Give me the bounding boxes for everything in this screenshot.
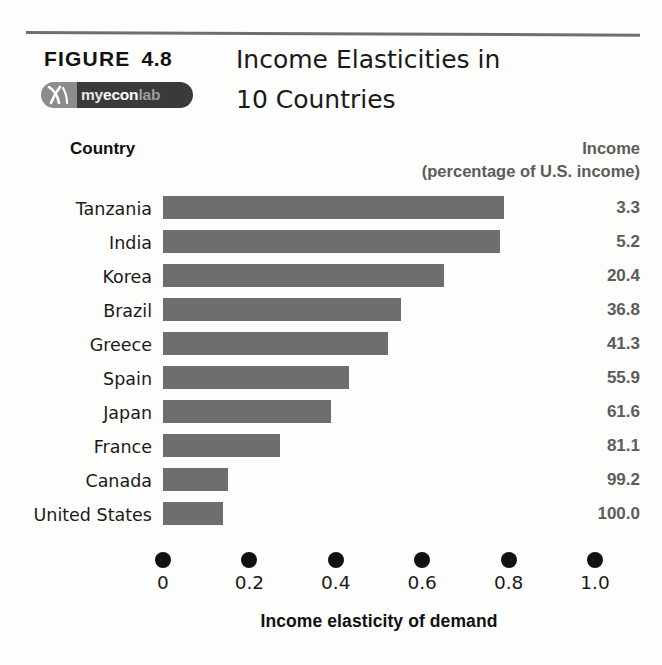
- x-axis-tick-dot: [155, 552, 171, 568]
- bar-elasticity: [163, 298, 401, 321]
- bar-elasticity: [163, 332, 388, 355]
- row-label-country: Tanzania: [0, 199, 152, 219]
- row-value-income: 99.2: [607, 470, 640, 490]
- x-axis-tick-label: 0: [133, 572, 193, 593]
- bar-elasticity: [163, 434, 280, 457]
- figure-page: FIGURE4.8 myeconlab Income Elasticities …: [0, 0, 662, 665]
- chart-row: India5.2: [0, 230, 662, 264]
- figure-label: FIGURE4.8: [44, 47, 172, 71]
- x-axis-tick-dot: [501, 552, 517, 568]
- row-label-country: Canada: [0, 471, 152, 491]
- row-label-country: India: [0, 233, 152, 253]
- row-label-country: Brazil: [0, 301, 152, 321]
- x-axis-tick-label: 1.0: [565, 572, 625, 593]
- x-axis-tick-dot: [241, 552, 257, 568]
- figure-title: Income Elasticities in 10 Countries: [236, 40, 636, 120]
- chart-row: Tanzania3.3: [0, 196, 662, 230]
- chart-row: Japan61.6: [0, 400, 662, 434]
- figure-title-line-1: Income Elasticities in: [236, 40, 636, 80]
- row-label-country: Spain: [0, 369, 152, 389]
- row-label-country: France: [0, 437, 152, 457]
- myeconlab-wordmark: myeconlab: [77, 82, 193, 108]
- chart-row: Spain55.9: [0, 366, 662, 400]
- row-value-income: 100.0: [597, 504, 640, 524]
- logo-text-econ: econ: [103, 82, 138, 108]
- x-axis-tick-dot: [414, 552, 430, 568]
- x-axis-tick-label: 0.4: [306, 572, 366, 593]
- row-value-income: 20.4: [607, 266, 640, 286]
- column-header-income: Income (percentage of U.S. income): [422, 137, 640, 183]
- figure-title-line-2: 10 Countries: [236, 80, 636, 120]
- chart-row: United States100.0: [0, 502, 662, 536]
- row-value-income: 55.9: [607, 368, 640, 388]
- header-divider: [26, 31, 640, 37]
- chart-row: Greece41.3: [0, 332, 662, 366]
- x-axis-tick-label: 0.2: [219, 572, 279, 593]
- chart-row: France81.1: [0, 434, 662, 468]
- myeconlab-logo: myeconlab: [41, 82, 193, 108]
- logo-text-my: my: [81, 82, 103, 108]
- bar-elasticity: [163, 400, 331, 423]
- column-header-income-line-1: Income: [422, 137, 640, 160]
- x-axis: 00.20.40.60.81.0: [0, 552, 662, 612]
- myeconlab-x-icon: [41, 82, 77, 108]
- row-value-income: 61.6: [607, 402, 640, 422]
- bar-elasticity: [163, 264, 444, 287]
- logo-text-lab: lab: [138, 82, 160, 108]
- bar-elasticity: [163, 196, 504, 219]
- x-axis-title: Income elasticity of demand: [163, 611, 595, 632]
- row-value-income: 41.3: [607, 334, 640, 354]
- column-header-country: Country: [70, 139, 135, 159]
- x-axis-tick-dot: [587, 552, 603, 568]
- chart-row: Canada99.2: [0, 468, 662, 502]
- row-label-country: United States: [0, 505, 152, 525]
- bar-elasticity: [163, 502, 223, 525]
- chart-rows: Tanzania3.3India5.2Korea20.4Brazil36.8Gr…: [0, 196, 662, 536]
- row-value-income: 3.3: [616, 198, 640, 218]
- row-label-country: Japan: [0, 403, 152, 423]
- row-value-income: 36.8: [607, 300, 640, 320]
- x-axis-tick-label: 0.6: [392, 572, 452, 593]
- bar-elasticity: [163, 366, 349, 389]
- chart-row: Brazil36.8: [0, 298, 662, 332]
- figure-number: 4.8: [142, 47, 173, 70]
- x-axis-tick-dot: [328, 552, 344, 568]
- row-label-country: Korea: [0, 267, 152, 287]
- row-label-country: Greece: [0, 335, 152, 355]
- bar-elasticity: [163, 468, 228, 491]
- row-value-income: 5.2: [616, 232, 640, 252]
- figure-label-word: FIGURE: [44, 47, 131, 70]
- column-header-income-line-2: (percentage of U.S. income): [422, 160, 640, 183]
- x-axis-tick-label: 0.8: [479, 572, 539, 593]
- bar-elasticity: [163, 230, 500, 253]
- row-value-income: 81.1: [607, 436, 640, 456]
- chart-row: Korea20.4: [0, 264, 662, 298]
